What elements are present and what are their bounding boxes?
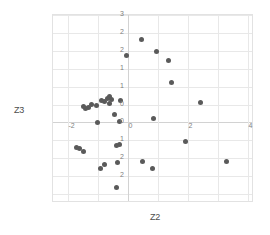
data-point — [94, 103, 99, 108]
gridline-horizontal — [53, 176, 252, 177]
y-tick-label: 2 — [110, 171, 124, 178]
x-tick-label: -2 — [69, 122, 75, 129]
y-tick-label: 1 — [110, 82, 124, 89]
data-point — [114, 185, 119, 190]
gridline-vertical — [188, 15, 189, 201]
data-point — [183, 139, 188, 144]
data-point — [98, 166, 103, 171]
x-tick-label: 4 — [249, 122, 253, 129]
gridline-vertical — [98, 15, 99, 201]
x-tick-label: 2 — [189, 122, 193, 129]
data-point — [150, 166, 155, 171]
gridline-horizontal — [53, 140, 252, 141]
y-tick-label: 2 — [110, 28, 124, 35]
y-tick-label: 0 — [110, 100, 124, 107]
x-tick-label: 0 — [129, 122, 133, 129]
gridline-vertical — [248, 15, 249, 201]
y-tick-label: 1 — [110, 135, 124, 142]
y-tick-label: 0 — [110, 117, 124, 124]
data-point — [81, 104, 86, 109]
data-point — [102, 162, 107, 167]
x-axis-title: Z2 — [150, 212, 160, 222]
gridline-horizontal — [53, 158, 252, 159]
y-tick-label: 3 — [110, 10, 124, 17]
y-tick-label: 2 — [110, 153, 124, 160]
data-point — [114, 143, 119, 148]
gridline-vertical — [158, 15, 159, 201]
data-point — [151, 116, 156, 121]
data-point — [169, 80, 174, 85]
data-point — [112, 112, 117, 117]
data-point — [139, 37, 144, 42]
data-point — [224, 159, 229, 164]
data-point — [95, 120, 100, 125]
gridline-vertical — [218, 15, 219, 201]
gridline-vertical — [68, 15, 69, 201]
data-point — [81, 149, 86, 154]
data-point — [115, 160, 120, 165]
y-axis-line — [128, 15, 129, 201]
gridline-horizontal — [53, 51, 252, 52]
gridline-horizontal — [53, 33, 252, 34]
x-axis-line — [53, 122, 252, 123]
data-point — [166, 58, 171, 63]
y-tick-label: 1 — [110, 64, 124, 71]
plot-area — [52, 14, 253, 202]
data-point — [140, 159, 145, 164]
data-point — [124, 53, 129, 58]
gridline-horizontal — [53, 69, 252, 70]
scatter-chart: Z3 Z2 3221100122-2024 — [0, 0, 270, 235]
gridline-horizontal — [53, 194, 252, 195]
gridline-horizontal — [53, 15, 252, 16]
gridline-horizontal — [53, 87, 252, 88]
y-tick-label: 2 — [110, 46, 124, 53]
y-axis-title: Z3 — [14, 105, 24, 115]
data-point — [74, 145, 79, 150]
